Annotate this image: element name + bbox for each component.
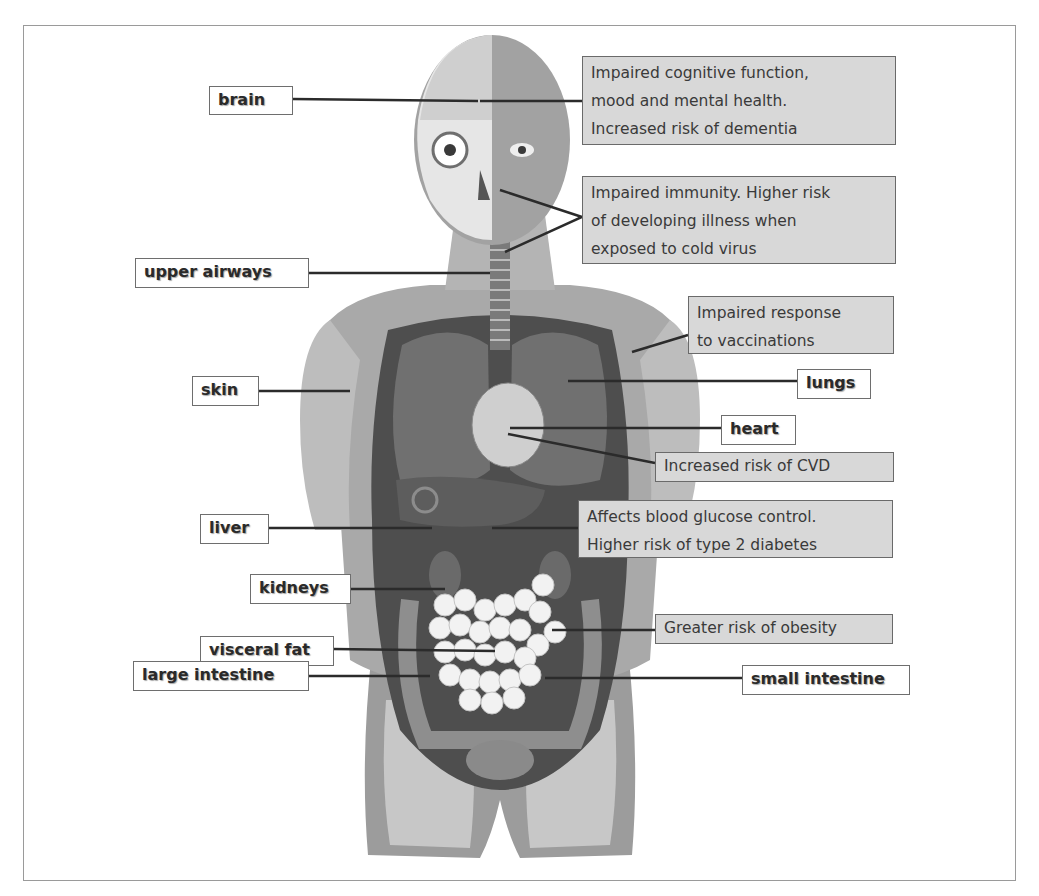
label-heart: heart — [721, 415, 796, 445]
effect-cognitive: Impaired cognitive function, mood and me… — [582, 56, 896, 145]
label-small-intestine: small intestine — [742, 665, 910, 695]
label-skin: skin — [192, 376, 259, 406]
heart-graphic — [472, 383, 544, 467]
effect-vaccination: Impaired response to vaccinations — [688, 296, 894, 354]
label-kidneys: kidneys — [250, 574, 351, 604]
kidney-left — [429, 551, 461, 599]
head — [414, 35, 570, 245]
label-upper-airways: upper airways — [135, 258, 309, 288]
bladder-graphic — [466, 740, 534, 780]
effect-immunity: Impaired immunity. Higher risk of develo… — [582, 176, 896, 264]
effect-glucose: Affects blood glucose control. Higher ri… — [578, 500, 893, 558]
label-brain: brain — [209, 86, 293, 115]
label-liver: liver — [200, 514, 269, 544]
label-lungs: lungs — [797, 369, 871, 399]
effect-cvd: Increased risk of CVD — [655, 452, 894, 482]
label-large-intestine: large intestine — [133, 661, 309, 691]
effect-obesity: Greater risk of obesity — [655, 614, 893, 644]
